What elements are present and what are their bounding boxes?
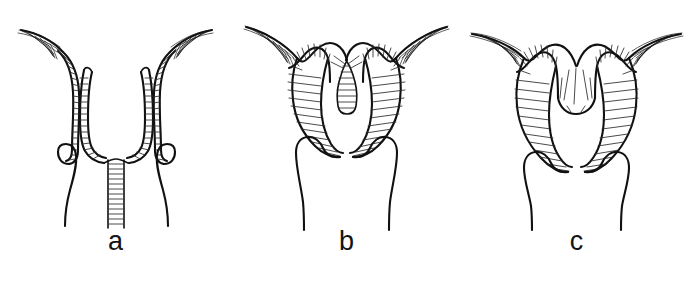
partial-septum-hatching [337,66,357,108]
panel-c: c [461,0,692,287]
panel-a-drawing [0,0,231,240]
panel-c-drawing [461,0,692,240]
septum-hatching [109,164,123,224]
horn-left-inner-wall [549,66,572,167]
panel-b-label: b [231,228,462,255]
fundal-notch-hatching [560,68,592,112]
horn-left-outer-wall [516,58,568,172]
figure-sheet: a [0,0,692,287]
fundal-arcuate-notch [558,98,595,114]
partial-septum-outline [337,60,356,114]
tube-right-outer-wall [346,27,447,61]
horn-right-outer-wall [585,58,637,172]
tube-left-outer-wall [246,27,347,61]
fimbria-right-icon [399,26,449,65]
horn-left-tip [84,68,92,72]
panel-b-drawing [231,0,462,240]
fimbria-left-icon [244,26,294,65]
panel-a: a [0,0,231,287]
panel-b: b [231,0,462,287]
uterine-body-right-wall [157,144,175,226]
panel-a-label: a [0,228,231,255]
horn-left-inner-wall [88,72,106,158]
panel-c-label: c [461,228,692,255]
horn-right-inner-wall [127,72,145,158]
horn-right-tip [141,68,149,72]
uterine-body-left-wall [58,144,76,226]
fimbria-right-icon [169,30,213,59]
